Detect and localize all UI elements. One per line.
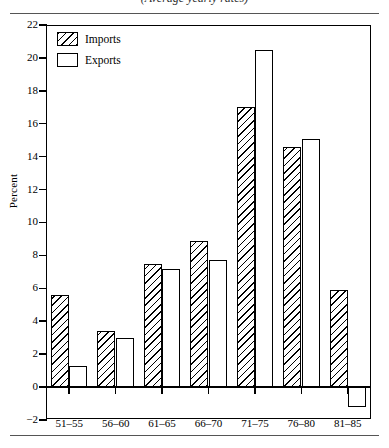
y-axis-tick xyxy=(39,222,47,224)
x-axis-tick xyxy=(208,387,210,394)
legend-swatch-exports-icon xyxy=(57,53,78,67)
legend-swatch-imports-icon xyxy=(57,32,78,46)
y-axis-label: 16 xyxy=(4,118,38,129)
bar-exports-81-85 xyxy=(348,387,366,407)
bar-imports-56-60 xyxy=(97,331,115,387)
bar-exports-56-60 xyxy=(116,338,134,387)
y-axis-label: 20 xyxy=(4,52,38,63)
bar-exports-71-75 xyxy=(255,50,273,387)
y-axis-label: 6 xyxy=(4,282,38,293)
bar-exports-66-70 xyxy=(209,260,227,387)
legend-label-imports: Imports xyxy=(85,32,121,46)
y-axis-tick xyxy=(39,24,47,26)
figure-title: (Average yearly rates) xyxy=(0,0,389,5)
rule-bottom xyxy=(10,435,379,436)
y-axis-tick xyxy=(39,189,47,191)
x-axis-tick xyxy=(301,387,303,394)
x-axis-tick xyxy=(115,387,117,394)
y-axis-label: 14 xyxy=(4,151,38,162)
bar-imports-66-70 xyxy=(190,241,208,387)
bar-imports-51-55 xyxy=(51,295,69,387)
bar-exports-61-65 xyxy=(162,269,180,387)
x-axis-label: 81–85 xyxy=(318,417,378,429)
y-axis-tick xyxy=(39,386,47,388)
rule-top xyxy=(10,13,379,14)
y-axis-tick xyxy=(39,156,47,158)
y-axis: Percent 2220181614121086420−2 xyxy=(0,0,38,448)
figure-container: (Average yearly rates) Percent 222018161… xyxy=(0,0,389,448)
y-axis-tick xyxy=(39,255,47,257)
legend-label-exports: Exports xyxy=(85,53,121,67)
y-axis-tick xyxy=(39,57,47,59)
bar-imports-71-75 xyxy=(237,107,255,387)
legend-item-exports: Exports xyxy=(57,49,121,70)
x-axis-tick xyxy=(254,387,256,394)
y-axis-tick xyxy=(39,353,47,355)
bar-imports-76-80 xyxy=(283,147,301,387)
bar-exports-76-80 xyxy=(302,139,320,387)
bar-exports-51-55 xyxy=(69,366,87,387)
x-axis-tick xyxy=(161,387,163,394)
y-axis-tick xyxy=(39,320,47,322)
y-axis-label: 0 xyxy=(4,381,38,392)
x-axis-tick xyxy=(68,387,70,394)
y-axis-tick xyxy=(39,288,47,290)
bar-imports-61-65 xyxy=(144,264,162,387)
bar-imports-81-85 xyxy=(330,290,348,387)
y-axis-label: 2 xyxy=(4,348,38,359)
y-axis-label: −2 xyxy=(4,414,38,425)
y-axis-tick xyxy=(39,90,47,92)
y-axis-label: 8 xyxy=(4,249,38,260)
legend-item-imports: Imports xyxy=(57,28,121,49)
y-axis-label: 10 xyxy=(4,216,38,227)
y-axis-tick xyxy=(39,123,47,125)
legend: Imports Exports xyxy=(57,28,121,70)
y-axis-label: 12 xyxy=(4,184,38,195)
y-axis-label: 18 xyxy=(4,85,38,96)
y-axis-label: 22 xyxy=(4,19,38,30)
y-axis-label: 4 xyxy=(4,315,38,326)
